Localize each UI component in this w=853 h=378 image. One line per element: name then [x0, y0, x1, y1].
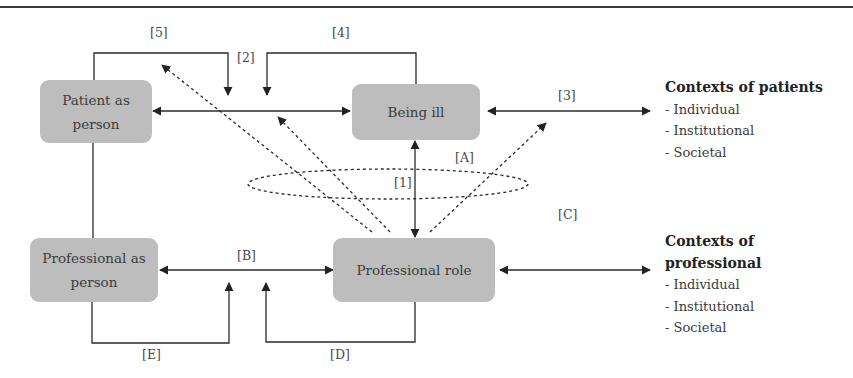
label-4: [4] — [332, 25, 350, 40]
label-C: [C] — [558, 207, 577, 222]
node-label: Being ill — [388, 100, 445, 124]
label-D: [D] — [330, 347, 350, 362]
node-professional-as-person: Professional as person — [30, 238, 158, 302]
label-E: [E] — [142, 347, 161, 362]
contexts-patients-item: - Societal — [665, 142, 823, 164]
node-being-ill: Being ill — [352, 84, 480, 140]
contexts-of-patients: Contexts of patients - Individual - Inst… — [665, 77, 823, 163]
label-A: [A] — [455, 150, 474, 165]
node-professional-role: Professional role — [333, 238, 495, 302]
label-2: [2] — [237, 50, 255, 65]
label-1: [1] — [394, 175, 412, 190]
contexts-professional-title-1: Contexts of — [665, 231, 761, 253]
dashed-ellipse-A — [248, 169, 528, 199]
contexts-professional-item: - Individual — [665, 274, 761, 296]
label-5: [5] — [150, 25, 168, 40]
node-label: Patient as person — [44, 88, 148, 136]
node-label: Professional role — [356, 258, 471, 282]
contexts-patients-title: Contexts of patients — [665, 77, 823, 99]
contexts-of-professional: Contexts of professional - Individual - … — [665, 231, 761, 339]
contexts-professional-item: - Institutional — [665, 296, 761, 318]
node-label: Professional as person — [34, 246, 154, 294]
node-patient-as-person: Patient as person — [40, 80, 152, 143]
label-3: [3] — [558, 88, 576, 103]
contexts-professional-item: - Societal — [665, 317, 761, 339]
contexts-patients-item: - Individual — [665, 99, 823, 121]
contexts-patients-item: - Institutional — [665, 120, 823, 142]
contexts-professional-title-2: professional — [665, 253, 761, 275]
label-B: [B] — [237, 248, 256, 263]
